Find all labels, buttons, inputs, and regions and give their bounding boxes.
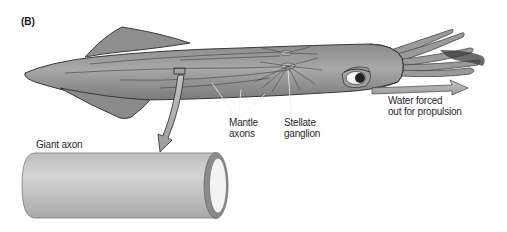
axon-lumen: [210, 159, 226, 213]
label-giant-axon: Giant axon: [36, 139, 82, 150]
panel-label: (B): [21, 16, 35, 27]
label-stellate-ganglion: Stellate ganglion: [284, 117, 320, 139]
giant-axon-cylinder: [22, 153, 228, 219]
squid-diagram: (B) Giant axon Mantle axons Stellate gan…: [0, 0, 507, 232]
label-water-propulsion: Water forced out for propulsion: [388, 95, 462, 117]
label-mantle-axons: Mantle axons: [229, 117, 258, 139]
